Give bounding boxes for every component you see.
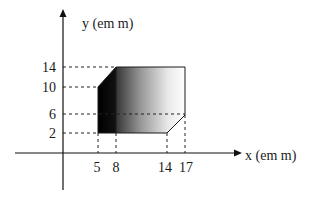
y-axis-arrow-icon bbox=[60, 9, 67, 17]
y-tick-6: 6 bbox=[49, 107, 56, 122]
x-tick-5: 5 bbox=[94, 160, 101, 175]
y-axis-label: y (em m) bbox=[82, 16, 134, 32]
y-tick-10: 10 bbox=[42, 80, 56, 95]
x-tick-17: 17 bbox=[179, 160, 193, 175]
coordinate-diagram: y (em m) x (em m) 14 10 6 2 5 8 14 17 bbox=[0, 0, 317, 197]
y-tick-14: 14 bbox=[42, 60, 56, 75]
x-tick-14: 14 bbox=[158, 160, 172, 175]
y-tick-2: 2 bbox=[49, 126, 56, 141]
plate-shape bbox=[98, 67, 185, 133]
x-axis-arrow-icon bbox=[234, 150, 242, 157]
x-tick-8: 8 bbox=[113, 160, 120, 175]
x-axis-label: x (em m) bbox=[245, 148, 297, 164]
